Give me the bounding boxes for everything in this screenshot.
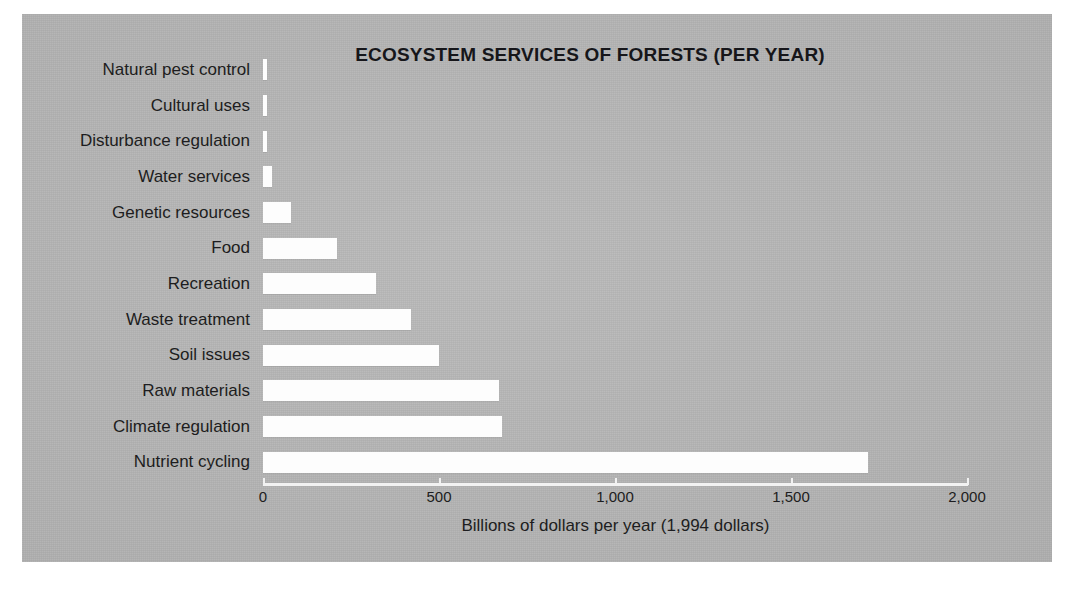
bar	[263, 238, 337, 259]
bar	[263, 59, 267, 80]
x-axis-tick	[439, 478, 441, 485]
x-axis-tick-label: 0	[218, 488, 308, 505]
category-label: Natural pest control	[10, 60, 250, 80]
category-label: Climate regulation	[10, 417, 250, 437]
category-label: Raw materials	[10, 381, 250, 401]
bar	[263, 452, 868, 473]
category-label: Genetic resources	[10, 203, 250, 223]
bar	[263, 416, 502, 437]
bar	[263, 202, 291, 223]
x-axis-tick-label: 500	[394, 488, 484, 505]
x-axis-title: Billions of dollars per year (1,994 doll…	[263, 516, 968, 536]
category-label: Soil issues	[10, 345, 250, 365]
category-label: Nutrient cycling	[10, 452, 250, 472]
x-axis-tick-label: 2,000	[922, 488, 1012, 505]
category-label: Recreation	[10, 274, 250, 294]
x-axis-tick	[263, 478, 265, 485]
category-axis-labels: Natural pest controlCultural usesDisturb…	[0, 52, 250, 480]
x-axis-tick	[615, 478, 617, 485]
chart-title: ECOSYSTEM SERVICES OF FORESTS (PER YEAR)	[330, 44, 850, 66]
x-axis-tick-label: 1,000	[570, 488, 660, 505]
category-label: Disturbance regulation	[10, 131, 250, 151]
bar	[263, 273, 376, 294]
x-axis-tick	[967, 478, 969, 485]
bar	[263, 309, 411, 330]
category-label: Food	[10, 238, 250, 258]
figure-canvas: ECOSYSTEM SERVICES OF FORESTS (PER YEAR)…	[0, 0, 1075, 596]
category-label: Waste treatment	[10, 310, 250, 330]
bar	[263, 131, 267, 152]
x-axis-tick	[791, 478, 793, 485]
plot-area	[263, 52, 967, 480]
x-axis-tick-label: 1,500	[746, 488, 836, 505]
category-label: Cultural uses	[10, 96, 250, 116]
bar	[263, 380, 499, 401]
bar	[263, 95, 267, 116]
category-label: Water services	[10, 167, 250, 187]
bar	[263, 345, 439, 366]
bar	[263, 166, 272, 187]
